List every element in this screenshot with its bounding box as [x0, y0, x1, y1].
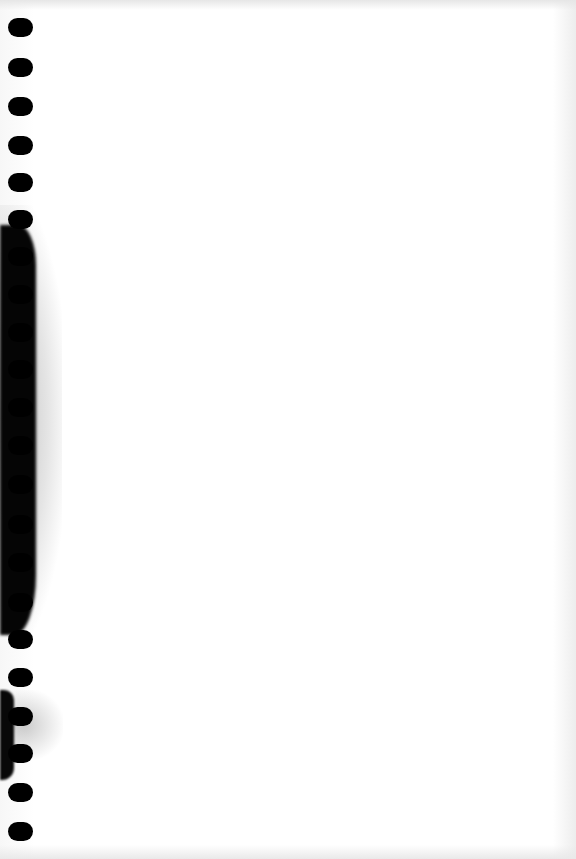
binding-hole — [8, 285, 33, 304]
page-bottom-edge-shadow — [0, 845, 576, 859]
binding-hole — [8, 436, 33, 455]
binding-hole — [8, 630, 33, 649]
binding-hole — [8, 475, 33, 494]
binding-hole — [8, 173, 33, 192]
binding-hole — [8, 593, 33, 612]
binding-hole — [8, 744, 33, 763]
binding-hole — [8, 553, 33, 572]
binding-hole — [8, 668, 33, 687]
binding-hole — [8, 323, 33, 342]
binding-hole — [8, 822, 33, 841]
binding-hole — [8, 136, 33, 155]
binding-hole — [8, 707, 33, 726]
binding-hole — [8, 58, 33, 77]
binding-hole — [8, 97, 33, 116]
binding-hole — [8, 360, 33, 379]
page-top-edge-shadow — [0, 0, 576, 10]
binding-hole — [8, 18, 33, 37]
binding-hole — [8, 783, 33, 802]
binding-hole — [8, 247, 33, 266]
binding-hole — [8, 515, 33, 534]
binding-hole — [8, 210, 33, 229]
notebook-page — [0, 0, 576, 859]
binding-hole — [8, 398, 33, 417]
lower-dark-stain — [0, 690, 14, 780]
